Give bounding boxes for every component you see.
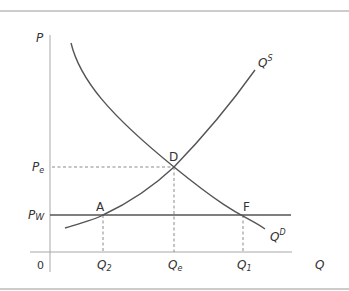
supply-curve	[65, 70, 255, 228]
q2-label: Q2	[97, 258, 112, 273]
pe-label: Pe	[32, 160, 44, 175]
pw-label: PW	[28, 208, 45, 222]
y-axis-label: P	[36, 31, 44, 45]
q1-label: Q1	[237, 258, 252, 273]
point-d-label: D	[169, 150, 178, 164]
x-axis-label: Q	[315, 258, 324, 272]
qe-label: Qe	[168, 258, 182, 273]
point-f-label: F	[243, 200, 250, 214]
supply-demand-diagram: P Q 0 Pe PW Q2 Qe Q1 QS QD D A F	[0, 0, 349, 291]
supply-curve-label: QS	[258, 54, 273, 70]
origin-label: 0	[37, 259, 44, 272]
point-a-label: A	[96, 200, 105, 214]
demand-curve-label: QD	[270, 228, 286, 244]
